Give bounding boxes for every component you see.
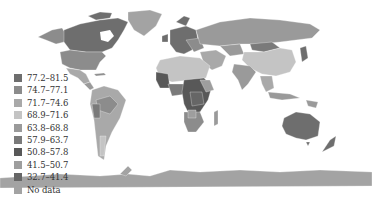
legend-label: 32.7–41.4 <box>27 172 68 182</box>
region-alaska <box>38 28 66 44</box>
region-greenland <box>128 10 162 36</box>
region-russia <box>196 18 320 46</box>
legend-swatch <box>14 99 22 107</box>
legend-swatch <box>14 111 22 119</box>
legend-swatch <box>14 161 22 169</box>
legend-swatch <box>14 173 22 181</box>
legend-item: 57.9–63.7 <box>14 134 68 146</box>
legend-swatch <box>14 74 22 82</box>
region-australia <box>282 112 320 140</box>
legend-label: 57.9–63.7 <box>27 135 68 145</box>
legend-label: 77.2–81.5 <box>27 73 68 83</box>
legend-label: 74.7–77.1 <box>27 85 68 95</box>
legend-item: 32.7–41.4 <box>14 171 68 183</box>
legend-label: 41.5–50.7 <box>27 160 68 170</box>
legend-label: No data <box>27 185 61 195</box>
region-canada <box>64 18 128 52</box>
map-legend: 77.2–81.5 74.7–77.1 71.7–74.6 68.9–71.6 … <box>14 72 68 196</box>
legend-swatch <box>14 124 22 132</box>
legend-label: 71.7–74.6 <box>27 98 68 108</box>
legend-item: 50.8–57.8 <box>14 146 68 158</box>
legend-swatch <box>14 186 22 194</box>
legend-swatch <box>14 148 22 156</box>
legend-swatch <box>14 136 22 144</box>
legend-swatch <box>14 86 22 94</box>
legend-item: 41.5–50.7 <box>14 159 68 171</box>
legend-label: 68.9–71.6 <box>27 110 68 120</box>
legend-label: 50.8–57.8 <box>27 147 68 157</box>
legend-item: 68.9–71.6 <box>14 109 68 121</box>
region-usa <box>60 50 106 70</box>
legend-item: 77.2–81.5 <box>14 72 68 84</box>
legend-label: 63.8–68.8 <box>27 123 68 133</box>
legend-item: 74.7–77.1 <box>14 84 68 96</box>
region-mexico <box>66 68 90 84</box>
legend-item: 63.8–68.8 <box>14 122 68 134</box>
legend-item: 71.7–74.6 <box>14 97 68 109</box>
legend-item: No data <box>14 184 68 196</box>
